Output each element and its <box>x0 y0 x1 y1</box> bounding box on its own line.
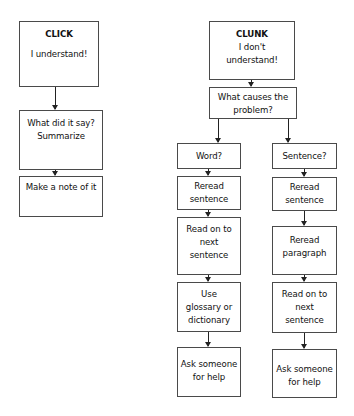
sentence-reread-paragraph-box: Reread paragraph <box>272 226 337 275</box>
word-step1-line1: Reread <box>178 180 240 193</box>
word-step3-line3: dictionary <box>178 314 240 327</box>
make-note-text: Make a note of it <box>20 181 102 194</box>
sentence-step3-line3: sentence <box>273 314 336 327</box>
sentence-step4-line2: for help <box>273 376 336 389</box>
arrow-click-to-summarize <box>55 87 56 109</box>
word-label: Word? <box>178 150 240 163</box>
word-ask-help-box: Ask someone for help <box>177 347 241 397</box>
arrow-clunk-to-question <box>251 80 252 86</box>
word-step2-line2: next <box>178 236 240 249</box>
arrow-sentence-to-reread-sentence <box>304 169 305 176</box>
word-step1-line2: sentence <box>178 193 240 206</box>
sentence-step2-line2: paragraph <box>273 247 336 260</box>
word-step2-line3: sentence <box>178 249 240 262</box>
arrow-summarize-to-note <box>55 170 56 175</box>
sentence-step2-line1: Reread <box>273 234 336 247</box>
word-step3-line2: glossary or <box>178 301 240 314</box>
arrow-word-step2-to-step3 <box>208 275 209 281</box>
sentence-step4-line1: Ask someone <box>273 363 336 376</box>
arrow-sentence-step3-to-step4 <box>304 333 305 348</box>
arrow-question-to-sentence <box>288 119 289 142</box>
word-box: Word? <box>177 143 241 169</box>
word-step3-line1: Use <box>178 288 240 301</box>
summarize-box: What did it say? Summarize <box>19 110 103 170</box>
question-line2: problem? <box>210 104 296 117</box>
arrow-sentence-step1-to-step2 <box>304 211 305 225</box>
clunk-title: CLUNK <box>210 28 294 41</box>
sentence-step1-line2: sentence <box>273 194 336 207</box>
sentence-step3-line1: Read on to <box>273 288 336 301</box>
sentence-box: Sentence? <box>272 143 337 169</box>
sentence-step3-line2: next <box>273 301 336 314</box>
word-step4-line2: for help <box>178 371 240 384</box>
sentence-label: Sentence? <box>273 150 336 163</box>
sentence-reread-sentence-box: Reread sentence <box>272 177 337 211</box>
word-glossary-box: Use glossary or dictionary <box>177 282 241 332</box>
word-step4-line1: Ask someone <box>178 358 240 371</box>
arrow-question-to-word <box>218 119 219 142</box>
question-box: What causes the problem? <box>209 87 297 119</box>
clunk-line2: understand! <box>210 54 294 67</box>
sentence-step1-line1: Reread <box>273 181 336 194</box>
summarize-line2: Summarize <box>20 130 102 143</box>
word-reread-sentence-box: Reread sentence <box>177 176 241 210</box>
summarize-line1: What did it say? <box>20 117 102 130</box>
arrow-word-step3-to-step4 <box>208 332 209 346</box>
sentence-ask-help-box: Ask someone for help <box>272 349 337 398</box>
word-step2-line1: Read on to <box>178 223 240 236</box>
clunk-line1: I don't <box>210 41 294 54</box>
click-title: CLICK <box>20 28 98 41</box>
click-text: I understand! <box>20 48 98 61</box>
word-read-on-box: Read on to next sentence <box>177 217 241 275</box>
clunk-start-box: CLUNK I don't understand! <box>209 21 295 80</box>
arrow-sentence-step2-to-step3 <box>304 275 305 281</box>
sentence-read-on-box: Read on to next sentence <box>272 282 337 333</box>
question-line1: What causes the <box>210 91 296 104</box>
click-start-box: CLICK I understand! <box>19 21 99 87</box>
make-note-box: Make a note of it <box>19 176 103 217</box>
arrow-word-step1-to-step2 <box>208 210 209 216</box>
arrow-word-to-reread-sentence <box>208 169 209 175</box>
